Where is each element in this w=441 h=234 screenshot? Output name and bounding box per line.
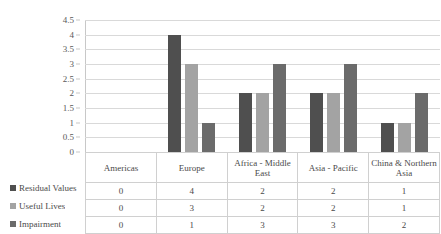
- table-cell: 1: [156, 217, 227, 234]
- table-cell: 2: [298, 200, 369, 217]
- bar: [398, 123, 411, 152]
- bar: [381, 123, 394, 152]
- table-cell: 0: [86, 217, 157, 234]
- table-cell: 3: [298, 217, 369, 234]
- legend-label: Impairment: [19, 219, 61, 229]
- legend-label: Useful Lives: [19, 201, 65, 211]
- table-row: 03221: [86, 200, 440, 217]
- bar: [202, 123, 215, 152]
- bar-group: [298, 20, 369, 152]
- y-axis-tick-label: 2: [70, 89, 75, 98]
- plot-area: [85, 20, 440, 152]
- legend: Residual ValuesUseful LivesImpairment: [10, 179, 86, 233]
- y-axis-tick-mark: [76, 20, 80, 21]
- y-axis-tick-mark: [76, 108, 80, 109]
- table-cell: 2: [298, 183, 369, 200]
- table-row: 01332: [86, 217, 440, 234]
- y-axis-tick-label: 1.5: [63, 104, 74, 113]
- bar: [310, 93, 323, 152]
- bar: [327, 93, 340, 152]
- table-cell: 2: [227, 200, 298, 217]
- bar: [239, 93, 252, 152]
- table-cell: 3: [227, 217, 298, 234]
- column-header: Europe: [156, 153, 227, 183]
- bar: [344, 64, 357, 152]
- bar-group: [156, 20, 227, 152]
- bar-group: [227, 20, 298, 152]
- y-axis-tick-label: 1: [70, 118, 75, 127]
- column-header: Africa - Middle East: [227, 153, 298, 183]
- legend-swatch-icon: [10, 203, 16, 209]
- bar: [256, 93, 269, 152]
- y-axis-tick-label: 0.5: [63, 133, 74, 142]
- y-axis-tick-mark: [76, 49, 80, 50]
- y-axis-tick-label: 4: [70, 30, 75, 39]
- table-cell: 0: [86, 183, 157, 200]
- y-axis-tick-label: 4.5: [63, 16, 74, 25]
- y-axis-tick-label: 2.5: [63, 74, 74, 83]
- y-axis-tick-mark: [76, 93, 80, 94]
- chart-container: 00.511.522.533.544.5 AmericasEuropeAfric…: [0, 0, 441, 234]
- legend-item: Impairment: [10, 215, 86, 233]
- y-axis-tick-mark: [76, 78, 80, 79]
- table-cell: 1: [369, 200, 440, 217]
- column-header: Americas: [86, 153, 157, 183]
- bar-groups: [85, 20, 440, 152]
- column-header: Asia - Pacific: [298, 153, 369, 183]
- table-cell: 1: [369, 183, 440, 200]
- y-axis-tick-mark: [76, 64, 80, 65]
- data-table: AmericasEuropeAfrica - Middle EastAsia -…: [85, 152, 440, 234]
- bar-group: [369, 20, 440, 152]
- y-axis-tick-label: 3: [70, 60, 75, 69]
- bar: [415, 93, 428, 152]
- y-axis-tick-mark: [76, 152, 80, 153]
- bar: [185, 64, 198, 152]
- table-cell: 2: [227, 183, 298, 200]
- table-header-row: AmericasEuropeAfrica - Middle EastAsia -…: [86, 153, 440, 183]
- table-cell: 0: [86, 200, 157, 217]
- y-axis-tick-mark: [76, 137, 80, 138]
- legend-item: Residual Values: [10, 179, 86, 197]
- column-header: China & Northern Asia: [369, 153, 440, 183]
- legend-label: Residual Values: [19, 183, 77, 193]
- bar: [168, 35, 181, 152]
- bar: [273, 64, 286, 152]
- y-axis-tick-mark: [76, 34, 80, 35]
- legend-swatch-icon: [10, 185, 16, 191]
- table-row: 04221: [86, 183, 440, 200]
- y-axis: 00.511.522.533.544.5: [0, 20, 80, 152]
- legend-item: Useful Lives: [10, 197, 86, 215]
- data-table-body: AmericasEuropeAfrica - Middle EastAsia -…: [86, 153, 440, 234]
- y-axis-tick-label: 3.5: [63, 45, 74, 54]
- bar-group: [85, 20, 156, 152]
- legend-swatch-icon: [10, 221, 16, 227]
- table-cell: 4: [156, 183, 227, 200]
- y-axis-tick-mark: [76, 122, 80, 123]
- y-axis-tick-label: 0: [70, 148, 75, 157]
- table-cell: 3: [156, 200, 227, 217]
- table-cell: 2: [369, 217, 440, 234]
